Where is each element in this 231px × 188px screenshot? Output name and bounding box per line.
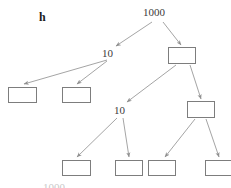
tree-edge [24,60,107,84]
tree-box-node [187,101,215,118]
tree-edge [165,119,195,157]
tree-edge [127,65,176,102]
tree-box-node [148,160,176,176]
tree-box-node [115,160,143,176]
tree-box-node [62,160,91,176]
tree-edge [190,65,201,99]
node-label-left-branch: 10 [102,48,113,59]
node-label-root: 1000 [143,7,165,18]
tree-edge [206,119,219,157]
tree-box-node [205,160,231,176]
tree-box-node [62,87,91,103]
figure-panel-h: h 1000 10 10 1000 [0,0,231,188]
tree-edge [123,118,129,157]
tree-box-node [168,47,196,64]
cropped-bottom-text: 1000 [43,182,65,188]
node-label-mid-branch: 10 [114,105,125,116]
tree-edge [163,22,181,45]
panel-letter-label: h [39,11,46,23]
tree-edge [116,22,152,46]
tree-box-node [8,87,37,103]
tree-edge [77,118,117,157]
